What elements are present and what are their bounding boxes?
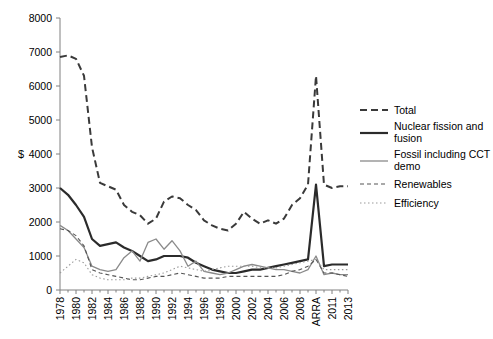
chart-container: 0 1000 2000 3000 4000 5000 6000 7000 800… bbox=[0, 0, 493, 339]
xtick-1982: 1982 bbox=[86, 297, 98, 321]
legend-item-total[interactable]: Total bbox=[360, 104, 416, 116]
ytick-1000: 1000 bbox=[29, 250, 53, 262]
ytick-6000: 6000 bbox=[29, 80, 53, 92]
legend-label-renewables: Renewables bbox=[394, 178, 452, 190]
xtick-1994: 1994 bbox=[182, 297, 194, 321]
legend-label-fossil-line1: Fossil including CCT bbox=[394, 148, 491, 160]
xtick-1986: 1986 bbox=[118, 297, 130, 321]
ytick-2000: 2000 bbox=[29, 216, 53, 228]
xtick-1980: 1980 bbox=[70, 297, 82, 321]
xtick-2004: 2004 bbox=[262, 297, 274, 321]
y-axis-label: $ bbox=[18, 148, 24, 160]
xtick-2000: 2000 bbox=[230, 297, 242, 321]
legend-label-total: Total bbox=[394, 104, 416, 116]
ytick-0: 0 bbox=[46, 284, 52, 296]
xtick-1978: 1978 bbox=[54, 297, 66, 321]
xtick-1988: 1988 bbox=[134, 297, 146, 321]
legend-label-fossil-line2: demo bbox=[394, 160, 420, 172]
legend: Total Nuclear fission and fusion Fossil … bbox=[356, 96, 491, 209]
xtick-1996: 1996 bbox=[198, 297, 210, 321]
xtick-1998: 1998 bbox=[214, 297, 226, 321]
xtick-2013: 2013 bbox=[342, 297, 354, 321]
xtick-1990: 1990 bbox=[150, 297, 162, 321]
xtick-ARRA: ARRA bbox=[310, 297, 322, 326]
legend-item-fossil[interactable]: Fossil including CCT demo bbox=[360, 148, 491, 172]
series-line-renewables bbox=[60, 229, 348, 280]
xtick-2011: 2011 bbox=[326, 297, 338, 320]
xtick-2008: 2008 bbox=[294, 297, 306, 321]
series-line-efficiency bbox=[60, 259, 348, 279]
legend-label-nuclear-line2: fusion bbox=[394, 132, 422, 144]
series-layer bbox=[60, 55, 348, 279]
ytick-5000: 5000 bbox=[29, 114, 53, 126]
xtick-1984: 1984 bbox=[102, 297, 114, 321]
xtick-2002: 2002 bbox=[246, 297, 258, 321]
ytick-8000: 8000 bbox=[29, 12, 53, 24]
ytick-3000: 3000 bbox=[29, 182, 53, 194]
series-line-total bbox=[60, 55, 348, 230]
legend-label-nuclear-line1: Nuclear fission and bbox=[394, 120, 483, 132]
legend-item-efficiency[interactable]: Efficiency bbox=[360, 197, 439, 209]
legend-item-nuclear[interactable]: Nuclear fission and fusion bbox=[360, 120, 483, 144]
xtick-2006: 2006 bbox=[278, 297, 290, 321]
y-axis-ticks: 0 1000 2000 3000 4000 5000 6000 7000 800… bbox=[29, 12, 60, 296]
ytick-4000: 4000 bbox=[29, 148, 53, 160]
xtick-1992: 1992 bbox=[166, 297, 178, 321]
energy-rd-line-chart: 0 1000 2000 3000 4000 5000 6000 7000 800… bbox=[0, 0, 493, 339]
ytick-7000: 7000 bbox=[29, 46, 53, 58]
x-axis-ticks: 1978198019821984198619881990199219941996… bbox=[54, 290, 354, 326]
series-line-nuclear-fission-and-fusion bbox=[60, 185, 348, 273]
legend-label-efficiency: Efficiency bbox=[394, 197, 439, 209]
legend-item-renewables[interactable]: Renewables bbox=[360, 178, 452, 190]
plot-axes bbox=[60, 18, 348, 290]
